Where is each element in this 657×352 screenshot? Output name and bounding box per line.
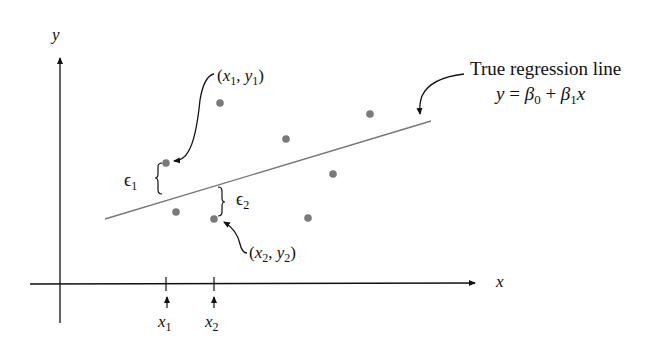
regression-equation: y = β0 + β1x <box>494 83 586 107</box>
x-axis: x <box>30 272 504 291</box>
tick-x1: x1 <box>157 277 172 334</box>
data-point <box>216 99 224 107</box>
regression-line <box>105 121 431 219</box>
data-point <box>172 208 180 216</box>
epsilon-2-label: ϵ2 <box>236 189 249 212</box>
tick-x2: x2 <box>204 277 219 334</box>
y-axis-label: y <box>50 25 60 44</box>
annotation-point-2: (x2, y2) <box>224 222 296 265</box>
x-axis-label: x <box>495 272 504 291</box>
tick-label-x1: x1 <box>157 312 172 334</box>
regression-line-title: True regression line <box>470 58 621 79</box>
data-point-2 <box>210 215 218 223</box>
data-point <box>329 170 337 178</box>
data-points <box>162 99 374 223</box>
data-point <box>366 110 374 118</box>
data-point <box>304 214 312 222</box>
data-point <box>282 135 290 143</box>
error-brace-1: ϵ1 <box>124 163 162 194</box>
point-2-label: (x2, y2) <box>249 243 296 265</box>
annotation-point-1: (x1, y1) <box>174 66 264 161</box>
data-point-1 <box>162 159 170 167</box>
epsilon-1-label: ϵ1 <box>124 170 137 193</box>
annotation-regression-line: True regression line y = β0 + β1x <box>420 58 622 114</box>
point-1-label: (x1, y1) <box>217 66 264 88</box>
y-axis: y <box>50 25 60 323</box>
tick-label-x2: x2 <box>204 312 219 334</box>
error-brace-2: ϵ2 <box>218 187 249 216</box>
regression-diagram: y x x1 x2 ϵ1 <box>0 0 657 352</box>
